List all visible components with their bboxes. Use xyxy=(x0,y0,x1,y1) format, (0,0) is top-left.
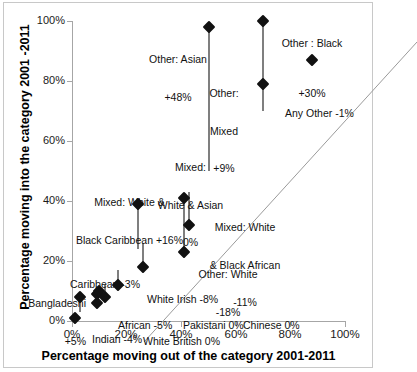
y-tick-label-80: 80% xyxy=(43,75,65,86)
annotation-line-1: White British 0% xyxy=(143,335,247,348)
annotation-line-1: Any Other -1% xyxy=(285,107,377,120)
annotation-line-2: Black Caribbean +16% xyxy=(72,234,187,247)
annotation-line-1: Mixed: White & xyxy=(72,196,187,209)
annotation-line-1: Other : Black xyxy=(253,37,371,50)
y-tick-label-60: 60% xyxy=(43,135,65,146)
annotation-any-other: Any Other -1% xyxy=(285,82,377,145)
annotation-line-1: Other: xyxy=(198,87,250,100)
x-tick-100 xyxy=(345,322,346,327)
y-tick-label-40: 40% xyxy=(43,195,65,206)
y-tick-label-100: 100% xyxy=(37,15,65,26)
annotation-chinese: Chinese 0% xyxy=(243,294,309,357)
annotation-line-1: Bangladeshi xyxy=(10,297,86,310)
annotation-line-1: Mixed: White xyxy=(196,221,294,234)
annotation-white-british: White British 0% xyxy=(143,310,247,372)
x-tick-label-100: 100% xyxy=(322,328,368,340)
annotation-bangladeshi: Bangladeshi +5% xyxy=(10,272,86,372)
y-tick-label-20: 20% xyxy=(43,255,65,266)
annotation-line-2: +5% xyxy=(10,335,86,348)
annotation-line-1: Chinese 0% xyxy=(243,319,309,332)
